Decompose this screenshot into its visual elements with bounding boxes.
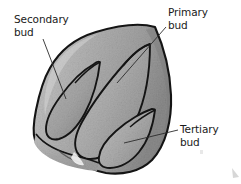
bud-diagram-figure: Secondary bud Primary bud Tertiary bud xyxy=(0,0,241,184)
scan-speck-artifact xyxy=(200,150,203,154)
label-primary-bud: Primary bud xyxy=(168,6,208,31)
label-secondary-bud: Secondary bud xyxy=(14,13,69,38)
label-tertiary-bud: Tertiary bud xyxy=(180,123,219,148)
scan-corner-artifact xyxy=(232,168,239,178)
